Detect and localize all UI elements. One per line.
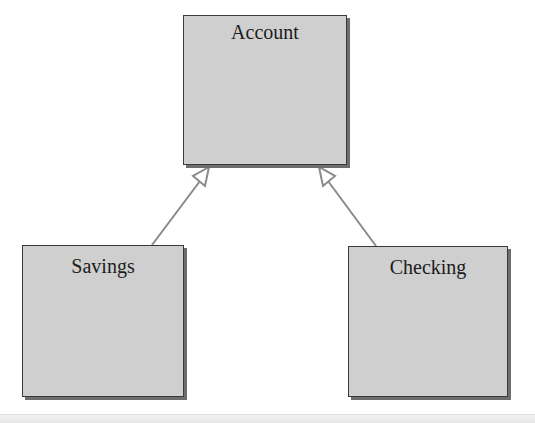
class-box-account[interactable]: Account [183, 15, 347, 165]
class-name-account: Account [184, 20, 346, 44]
savings-to-account-generalization [152, 167, 209, 245]
class-name-checking: Checking [349, 255, 507, 279]
hollow-triangle-arrowhead-icon [193, 167, 209, 186]
class-name-savings: Savings [23, 254, 183, 278]
checking-to-account-generalization [319, 167, 376, 246]
bottom-edge-band [0, 414, 535, 423]
class-box-savings[interactable]: Savings [22, 245, 184, 397]
hollow-triangle-arrowhead-icon [319, 167, 335, 186]
class-box-checking[interactable]: Checking [348, 246, 508, 397]
